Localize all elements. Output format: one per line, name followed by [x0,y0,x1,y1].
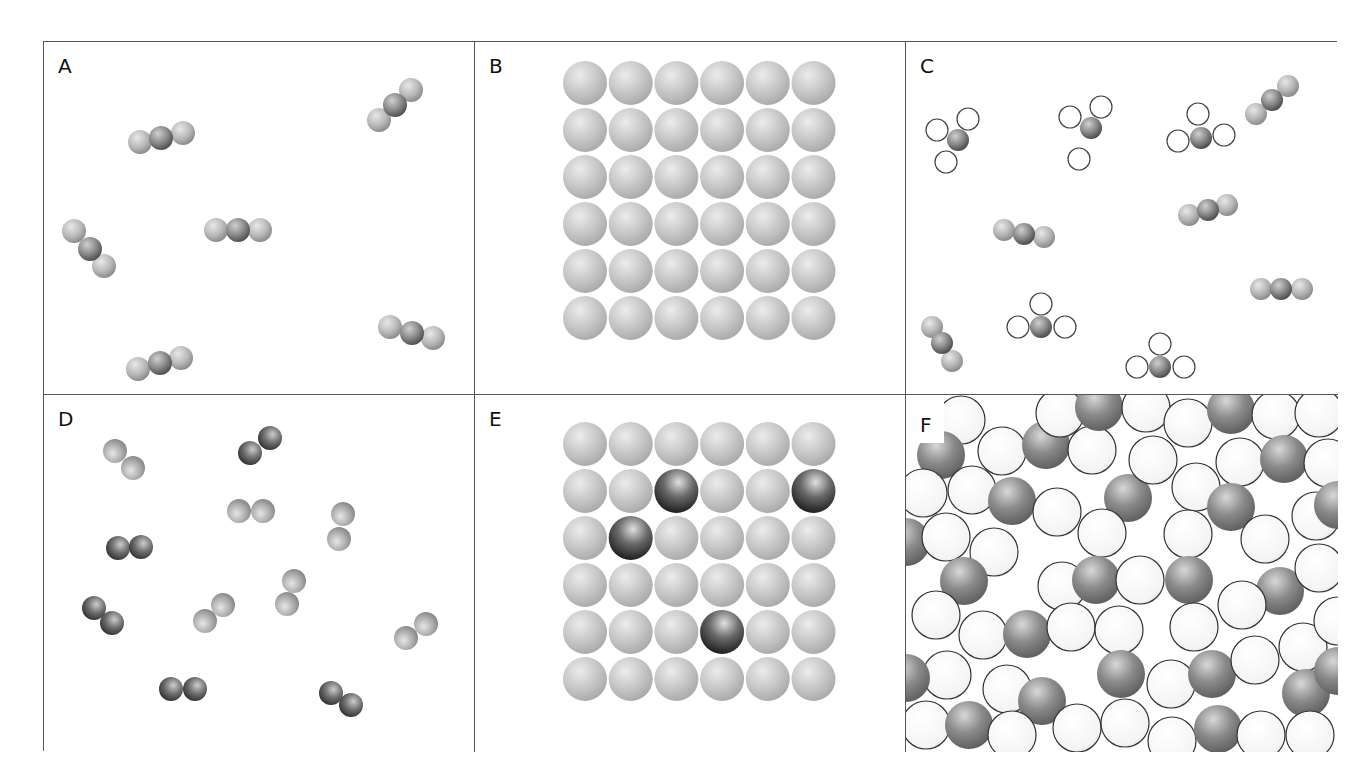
molecule-triatomic [921,316,963,372]
molecule-triatomic [1250,278,1313,300]
open-sphere [1164,399,1212,447]
dark-sphere [1188,650,1236,698]
molecule-diatomic [82,596,124,635]
panel-label-c: C [920,54,934,78]
molecule-diatomic [275,569,306,616]
panel-a-illustration [44,42,475,395]
dark-sphere [1194,705,1242,752]
open-sphere [922,513,970,561]
open-sphere [1237,711,1285,752]
open-sphere [1116,556,1164,604]
panel-label-b: B [489,54,503,78]
open-sphere [1068,426,1116,474]
molecule-diatomic [193,593,235,633]
molecule-diatomic [238,426,282,465]
dark-sphere [1075,395,1123,431]
open-sphere [978,427,1026,475]
dark-sphere [1003,610,1051,658]
panel-e-lattice [475,395,906,752]
panel-f-mixture [906,395,1338,752]
open-sphere [1231,636,1279,684]
open-sphere [959,611,1007,659]
open-sphere [1304,439,1338,487]
open-sphere [906,701,950,749]
open-sphere [1122,395,1170,432]
molecule-diatomic [319,681,363,717]
molecule-tetraatomic [1007,293,1076,338]
molecule-tetraatomic [926,108,979,173]
panel-label-a: A [58,54,72,78]
sphere-mixture [906,395,1338,752]
molecule-tetraatomic [1059,96,1112,170]
atom-lattice-doped [563,422,836,701]
molecule-triatomic [204,218,272,242]
open-sphere [1047,603,1095,651]
open-sphere [1286,711,1334,752]
molecule-tetraatomic [1126,333,1195,378]
open-sphere [1295,544,1338,592]
open-sphere [1295,395,1338,437]
dark-sphere [988,477,1036,525]
molecule-diatomic [227,499,275,523]
molecule-triatomic [378,315,445,350]
dark-sphere [1097,650,1145,698]
open-sphere [1053,704,1101,752]
panel-label-f: F [906,395,944,443]
open-sphere [1252,395,1300,439]
dark-sphere [945,701,993,749]
open-sphere [1147,660,1195,708]
open-sphere [1164,510,1212,558]
open-sphere [1216,438,1264,486]
atom-lattice [563,61,836,340]
molecule-triatomic [126,346,193,381]
molecule-triatomic [128,121,195,154]
open-sphere [1170,603,1218,651]
caption-fragment [0,0,1372,6]
dark-sphere [1165,556,1213,604]
open-sphere [1129,436,1177,484]
open-sphere [1218,581,1266,629]
molecule-tetraatomic [1167,103,1235,152]
molecule-diatomic [394,612,438,650]
open-sphere [1095,606,1143,654]
panel-b: B [475,42,906,395]
panel-label-e: E [489,407,502,431]
open-sphere [906,469,947,517]
panel-d: D [44,395,475,752]
molecule-diatomic [159,677,207,701]
dark-sphere [1260,435,1308,483]
molecule-triatomic [1245,75,1299,125]
molecule-diatomic [106,535,153,560]
open-sphere [1101,699,1149,747]
molecule-triatomic [993,219,1055,248]
open-sphere [923,651,971,699]
molecule-triatomic [367,78,423,132]
open-sphere [1241,515,1289,563]
open-sphere [1078,509,1126,557]
molecule-diatomic [103,439,145,480]
panel-f: F [906,395,1338,752]
panel-e: E [475,395,906,752]
panel-a: A [44,42,475,395]
open-sphere [1033,488,1081,536]
panel-label-d: D [58,407,73,431]
dark-sphere [1072,556,1120,604]
dark-sphere [906,654,930,702]
open-sphere [912,591,960,639]
open-sphere [1148,717,1196,752]
figure-grid: A B C [43,41,1337,751]
panel-c-illustration [906,42,1338,395]
molecule-diatomic [327,502,355,551]
dark-sphere [1207,395,1255,434]
molecule-triatomic [62,219,116,278]
open-sphere [988,711,1036,752]
panel-d-illustration [44,395,475,752]
panel-c: C [906,42,1338,395]
panel-b-lattice [475,42,906,395]
molecule-triatomic [1178,194,1238,226]
